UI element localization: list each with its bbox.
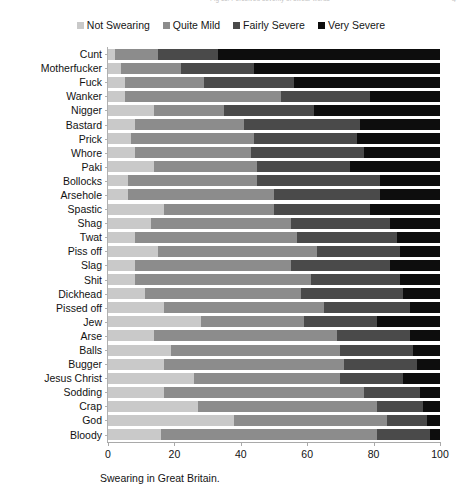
legend-swatch-icon xyxy=(233,22,240,29)
bar-segment xyxy=(311,274,401,285)
bar-segment xyxy=(410,302,440,313)
stacked-bar xyxy=(108,49,440,60)
bar-segment xyxy=(164,387,363,398)
bar-segment xyxy=(164,204,274,215)
stacked-bar xyxy=(108,189,440,200)
bar-segment xyxy=(108,175,128,186)
bar-segment xyxy=(145,288,301,299)
chart-bar-row: Twat xyxy=(108,230,440,244)
bar-segment xyxy=(128,189,274,200)
bar-segment xyxy=(201,316,304,327)
y-axis-tick xyxy=(105,308,108,309)
stacked-bar xyxy=(108,345,440,356)
y-axis-tick xyxy=(105,265,108,266)
legend-swatch-icon xyxy=(163,22,170,29)
y-axis-tick xyxy=(105,195,108,196)
bar-segment xyxy=(108,147,135,158)
chart-bar-row: Cunt xyxy=(108,47,440,61)
bar-segment xyxy=(417,359,440,370)
bar-segment xyxy=(344,359,417,370)
chart-bar-row: Dickhead xyxy=(108,287,440,301)
stacked-bar xyxy=(108,401,440,412)
bar-segment xyxy=(400,274,440,285)
y-axis-category-label: Spastic xyxy=(68,204,102,215)
stacked-bar-chart: CuntMotherfuckerFuckWankerNiggerBastardP… xyxy=(0,44,462,454)
bar-segment xyxy=(108,274,135,285)
bar-segment xyxy=(251,147,364,158)
y-axis-category-label: Shag xyxy=(77,218,102,229)
chart-bar-row: Jew xyxy=(108,315,440,329)
bar-segment xyxy=(274,204,370,215)
bar-segment xyxy=(304,316,377,327)
bar-segment xyxy=(364,147,440,158)
bar-segment xyxy=(108,49,115,60)
chart-bar-row: Crap xyxy=(108,399,440,413)
stacked-bar xyxy=(108,288,440,299)
y-axis-category-label: Slag xyxy=(81,260,102,271)
x-axis-line xyxy=(107,442,441,443)
y-axis-tick xyxy=(105,68,108,69)
x-axis-tick-label: 0 xyxy=(105,448,111,460)
bar-segment xyxy=(125,91,281,102)
y-axis-tick xyxy=(105,139,108,140)
bar-segment xyxy=(108,204,164,215)
chart-bar-row: Shit xyxy=(108,273,440,287)
legend-swatch-icon xyxy=(318,22,325,29)
chart-bar-row: Shag xyxy=(108,216,440,230)
bar-segment xyxy=(364,387,420,398)
chart-bar-row: Prick xyxy=(108,132,440,146)
stacked-bar xyxy=(108,359,440,370)
bar-segment xyxy=(135,232,298,243)
bar-segment xyxy=(121,63,181,74)
bar-segment xyxy=(108,401,198,412)
y-axis-category-label: Wanker xyxy=(66,91,102,102)
bar-segment xyxy=(108,133,131,144)
bar-segment xyxy=(377,316,440,327)
bar-segment xyxy=(161,429,377,440)
bar-segment xyxy=(420,387,440,398)
legend-item: Quite Mild xyxy=(163,19,220,31)
bar-segment xyxy=(151,218,290,229)
bar-segment xyxy=(108,232,135,243)
y-axis-tick xyxy=(105,223,108,224)
x-axis-tick xyxy=(307,442,308,446)
y-axis-category-label: Bastard xyxy=(66,119,102,130)
chart-bar-row: Arsehole xyxy=(108,188,440,202)
bar-segment xyxy=(135,147,251,158)
chart-bar-row: God xyxy=(108,413,440,427)
bar-segment xyxy=(108,161,154,172)
bar-segment xyxy=(324,302,410,313)
bar-segment xyxy=(108,63,121,74)
x-axis-tick-label: 60 xyxy=(301,448,313,460)
y-axis-tick xyxy=(105,209,108,210)
bar-segment xyxy=(377,401,423,412)
bar-segment xyxy=(171,345,340,356)
bar-segment xyxy=(108,246,158,257)
bar-segment xyxy=(340,373,403,384)
stacked-bar xyxy=(108,415,440,426)
y-axis-category-label: Arse xyxy=(80,331,102,342)
bar-segment xyxy=(108,316,201,327)
chart-legend: Not SwearingQuite MildFairly SevereVery … xyxy=(0,19,462,31)
stacked-bar xyxy=(108,147,440,158)
y-axis-category-label: Prick xyxy=(79,133,102,144)
bar-segment xyxy=(108,373,194,384)
stacked-bar xyxy=(108,119,440,130)
legend-item: Not Swearing xyxy=(77,19,150,31)
chart-bar-row: Motherfucker xyxy=(108,61,440,75)
bar-segment xyxy=(337,330,410,341)
y-axis-tick xyxy=(105,406,108,407)
stacked-bar xyxy=(108,161,440,172)
chart-bar-row: Piss off xyxy=(108,244,440,258)
bar-segment xyxy=(410,330,440,341)
bar-segment xyxy=(397,232,440,243)
chart-bar-row: Whore xyxy=(108,146,440,160)
bar-segment xyxy=(125,77,205,88)
chart-bar-row: Nigger xyxy=(108,103,440,117)
chart-bar-row: Bollocks xyxy=(108,174,440,188)
stacked-bar xyxy=(108,133,440,144)
figure-caption: Swearing in Great Britain. xyxy=(100,472,220,484)
stacked-bar xyxy=(108,330,440,341)
y-axis-tick xyxy=(105,96,108,97)
bar-segment xyxy=(294,77,440,88)
